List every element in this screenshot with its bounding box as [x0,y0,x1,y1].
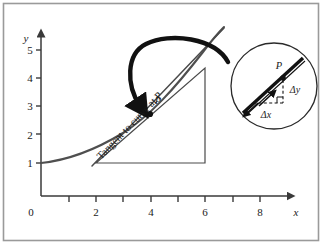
delta-x-label: Δx [260,109,272,120]
diagram-canvas: y x 0 1 2 3 4 5 2 4 6 8 P Tangent to cur… [0,0,322,244]
y-tick-label-4: 4 [27,72,33,84]
origin-label: 0 [28,206,34,218]
y-tick-label-5: 5 [27,44,33,56]
x-axis-label: x [293,206,299,218]
y-axis-label: y [23,32,29,44]
magnifier-point-p-label: P [275,60,283,71]
y-tick-label-1: 1 [27,157,33,169]
delta-y-label: Δy [289,84,301,95]
magnifier-inset: P Δy Δx [231,43,317,129]
y-tick-label-3: 3 [27,100,33,112]
x-tick-label-2: 2 [93,206,99,218]
x-tick-label-6: 6 [202,206,208,218]
y-tick-label-2: 2 [27,129,33,141]
x-tick-label-8: 8 [257,206,263,218]
magnifier-point-p-marker [280,75,286,81]
tangent-diagram-figure: y x 0 1 2 3 4 5 2 4 6 8 P Tangent to cur… [0,0,322,244]
x-tick-label-4: 4 [148,206,154,218]
